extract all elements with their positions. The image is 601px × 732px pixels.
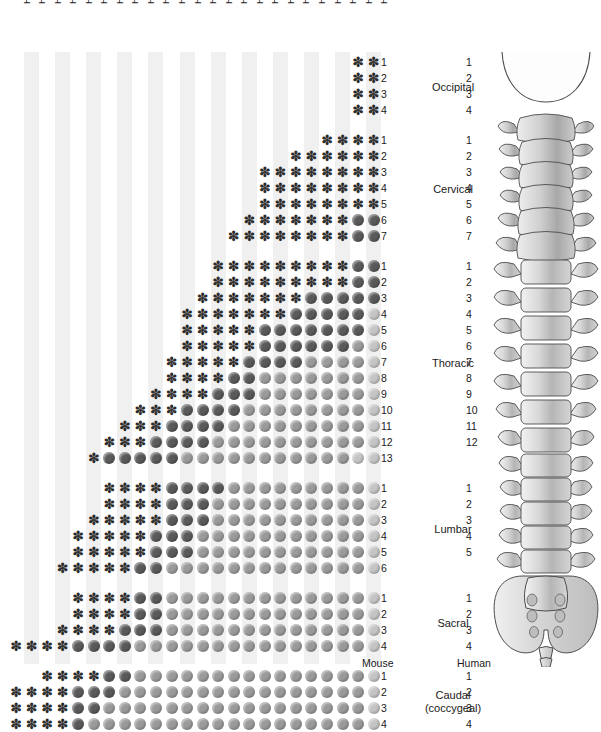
human-vertebra-number: 1 — [466, 593, 482, 604]
mid-dot-mark — [290, 372, 302, 384]
asterisk-mark: ✽ — [25, 718, 38, 731]
asterisk-mark: ✽ — [149, 388, 162, 401]
mid-dot-mark — [321, 436, 333, 448]
asterisk-mark: ✽ — [196, 292, 209, 305]
dark-dot-mark — [337, 340, 349, 352]
asterisk-mark: ✽ — [118, 436, 131, 449]
mid-dot-mark — [337, 546, 349, 558]
asterisk-mark: ✽ — [352, 150, 365, 163]
asterisk-mark: ✽ — [25, 702, 38, 715]
mid-dot-mark — [352, 640, 364, 652]
mid-dot-mark — [337, 702, 349, 714]
dark-dot-mark — [181, 436, 193, 448]
dark-dot-mark — [166, 436, 178, 448]
asterisk-mark: ✽ — [181, 324, 194, 337]
mid-dot-mark — [305, 718, 317, 730]
dark-dot-mark — [166, 530, 178, 542]
asterisk-mark: ✽ — [336, 276, 349, 289]
asterisk-mark: ✽ — [352, 198, 365, 211]
light-dot-mark — [368, 562, 380, 574]
asterisk-mark: ✽ — [118, 546, 131, 559]
mid-dot-mark — [181, 640, 193, 652]
mid-dot-mark — [352, 514, 364, 526]
asterisk-mark: ✽ — [367, 198, 380, 211]
dark-dot-mark — [321, 308, 333, 320]
asterisk-mark: ✽ — [336, 230, 349, 243]
asterisk-mark: ✽ — [196, 388, 209, 401]
mid-dot-mark — [228, 546, 240, 558]
asterisk-mark: ✽ — [258, 308, 271, 321]
asterisk-mark: ✽ — [258, 230, 271, 243]
light-dot-mark — [368, 686, 380, 698]
light-dot-mark — [368, 482, 380, 494]
mid-dot-mark — [290, 498, 302, 510]
human-vertebra-number: 2 — [466, 499, 482, 510]
mid-dot-mark — [321, 702, 333, 714]
dark-dot-mark — [197, 514, 209, 526]
dark-dot-mark — [197, 498, 209, 510]
asterisk-mark: ✽ — [258, 166, 271, 179]
mouse-vertebra-number: 1 — [381, 593, 397, 604]
asterisk-mark: ✽ — [25, 686, 38, 699]
mid-dot-mark — [321, 624, 333, 636]
asterisk-mark: ✽ — [196, 308, 209, 321]
region-label-caudal: Caudal(coccygeal) — [398, 689, 508, 714]
asterisk-mark: ✽ — [321, 230, 334, 243]
mid-dot-mark — [321, 608, 333, 620]
mid-dot-mark — [228, 670, 240, 682]
human-vertebra-number: 4 — [466, 105, 482, 116]
dark-dot-mark — [321, 324, 333, 336]
mid-dot-mark — [197, 640, 209, 652]
mouse-vertebra-number: 5 — [381, 325, 397, 336]
asterisk-mark: ✽ — [352, 72, 365, 85]
asterisk-mark: ✽ — [196, 340, 209, 353]
asterisk-mark: ✽ — [274, 182, 287, 195]
mid-dot-mark — [259, 592, 271, 604]
mid-dot-mark — [228, 608, 240, 620]
mouse-vertebra-number: 2 — [381, 151, 397, 162]
asterisk-mark: ✽ — [72, 546, 85, 559]
asterisk-mark: ✽ — [321, 134, 334, 147]
asterisk-mark: ✽ — [212, 308, 225, 321]
mid-dot-mark — [259, 624, 271, 636]
mid-dot-mark — [321, 356, 333, 368]
mid-dot-mark — [259, 452, 271, 464]
asterisk-mark: ✽ — [367, 88, 380, 101]
light-dot-mark — [368, 670, 380, 682]
mid-dot-mark — [228, 530, 240, 542]
asterisk-mark: ✽ — [336, 182, 349, 195]
mouse-vertebra-number: 1 — [381, 483, 397, 494]
human-vertebra-number: 11 — [466, 421, 482, 432]
human-vertebra-number: 7 — [466, 231, 482, 242]
asterisk-mark: ✽ — [305, 182, 318, 195]
asterisk-mark: ✽ — [25, 640, 38, 653]
asterisk-mark: ✽ — [10, 718, 23, 731]
asterisk-mark: ✽ — [258, 260, 271, 273]
asterisk-mark: ✽ — [212, 340, 225, 353]
mid-dot-mark — [352, 436, 364, 448]
mid-dot-mark — [243, 670, 255, 682]
asterisk-mark: ✽ — [181, 372, 194, 385]
asterisk-mark: ✽ — [87, 562, 100, 575]
mid-dot-mark — [197, 530, 209, 542]
dark-dot-mark — [352, 276, 364, 288]
mid-dot-mark — [352, 340, 364, 352]
dark-dot-mark — [150, 452, 162, 464]
mouse-vertebra-number: 13 — [381, 453, 397, 464]
mid-dot-mark — [166, 702, 178, 714]
dark-dot-mark — [259, 324, 271, 336]
mouse-vertebra-number: 2 — [381, 499, 397, 510]
asterisk-mark: ✽ — [134, 514, 147, 527]
mid-dot-mark — [337, 640, 349, 652]
light-dot-mark — [368, 640, 380, 652]
human-spine-illustration — [492, 52, 601, 667]
mid-dot-mark — [150, 640, 162, 652]
mid-dot-mark — [321, 514, 333, 526]
mid-dot-mark — [352, 718, 364, 730]
mouse-vertebra-number: 4 — [381, 309, 397, 320]
mid-dot-mark — [197, 562, 209, 574]
asterisk-mark: ✽ — [118, 530, 131, 543]
asterisk-mark: ✽ — [289, 166, 302, 179]
asterisk-mark: ✽ — [10, 686, 23, 699]
mouse-vertebra-number: 3 — [381, 703, 397, 714]
